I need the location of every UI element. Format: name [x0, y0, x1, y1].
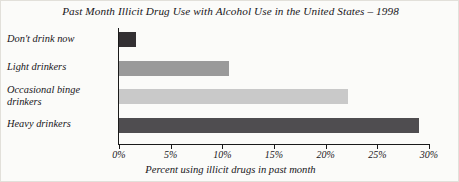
category-label-1: Light drinkers: [7, 61, 115, 73]
bar-1: [119, 61, 229, 76]
x-axis-title: Percent using illicit drugs in past mont…: [1, 164, 459, 175]
category-label-2: Occasional binge drinkers: [7, 84, 115, 108]
x-tick-label: 15%: [254, 149, 294, 160]
chart-title: Past Month Illicit Drug Use with Alcohol…: [1, 5, 459, 17]
x-tick-label: 25%: [357, 149, 397, 160]
chart-figure: Past Month Illicit Drug Use with Alcohol…: [0, 0, 459, 182]
x-tick-label: 0%: [99, 149, 139, 160]
bar-3: [119, 118, 419, 133]
x-tick-label: 5%: [151, 149, 191, 160]
bar-2: [119, 89, 348, 104]
plot-area: [119, 29, 429, 143]
category-label-0: Don't drink now: [7, 33, 115, 45]
x-tick-label: 20%: [306, 149, 346, 160]
x-tick-label: 30%: [409, 149, 449, 160]
bar-0: [119, 32, 136, 47]
x-tick-label: 10%: [202, 149, 242, 160]
category-label-3: Heavy drinkers: [7, 118, 115, 130]
